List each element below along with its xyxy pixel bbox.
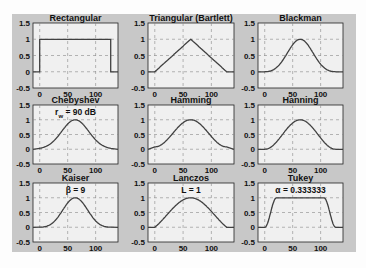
- y-tick-label: 0: [141, 223, 146, 232]
- y-tick-label: 1: [26, 35, 31, 44]
- subplot-rectangular: 050100-0.500.511.5Rectangular: [16, 14, 118, 99]
- x-tick-label: 50: [179, 244, 188, 252]
- subplot-title: Hamming: [170, 95, 211, 105]
- y-tick-label: 1: [251, 35, 256, 44]
- y-tick-label: 0: [26, 145, 31, 154]
- subplot-title: Chebyshev: [51, 95, 99, 105]
- y-tick-label: 0.5: [134, 209, 146, 218]
- subplot-title: Hanning: [283, 95, 319, 105]
- subplot-bartlett: 050100-0.500.511.5Triangular (Bartlett): [131, 14, 234, 99]
- y-tick-label: 0: [141, 145, 146, 154]
- y-tick-label: 1: [26, 194, 31, 203]
- y-tick-label: 1.5: [244, 179, 256, 188]
- y-tick-label: 0: [26, 68, 31, 77]
- figure: 050100-0.500.511.5Rectangular050100-0.50…: [12, 14, 356, 252]
- x-tick-label: 0: [153, 166, 158, 175]
- x-tick-label: 0: [262, 166, 267, 175]
- y-tick-label: 1.5: [134, 101, 146, 110]
- subplot-blackman: 050100-0.500.511.5Blackman: [241, 14, 343, 99]
- subplot-lanczos: 050100-0.500.511.5LanczosL = 1: [131, 173, 234, 252]
- y-tick-label: 1.5: [244, 19, 256, 28]
- y-tick-label: 1: [141, 194, 146, 203]
- y-tick-label: 1.5: [244, 101, 256, 110]
- subplot-title: Lanczos: [173, 173, 209, 183]
- x-tick-label: 100: [314, 244, 328, 252]
- x-tick-label: 0: [262, 90, 267, 99]
- subplot-title: Kaiser: [62, 173, 90, 183]
- x-tick-label: 100: [205, 244, 219, 252]
- x-tick-label: 50: [288, 244, 297, 252]
- subplot-title: Tukey: [288, 173, 313, 183]
- x-tick-label: 0: [262, 244, 267, 252]
- y-tick-label: 0.5: [244, 131, 256, 140]
- subplot-hanning: 050100-0.500.511.5Hanning: [241, 95, 343, 175]
- y-tick-label: 1.5: [19, 101, 31, 110]
- y-tick-label: 0.5: [19, 52, 31, 61]
- subplot-title: Rectangular: [49, 14, 102, 23]
- y-tick-label: 0: [251, 223, 256, 232]
- y-tick-label: -0.5: [16, 160, 30, 169]
- y-tick-label: 0.5: [19, 209, 31, 218]
- y-tick-label: 0: [141, 68, 146, 77]
- x-tick-label: 100: [314, 166, 328, 175]
- y-tick-label: -0.5: [241, 84, 255, 93]
- subplot-annotation: L = 1: [181, 185, 201, 195]
- y-tick-label: -0.5: [131, 84, 145, 93]
- y-tick-label: -0.5: [241, 238, 255, 247]
- y-tick-label: 1: [141, 35, 146, 44]
- subplot-kaiser: 050100-0.500.511.5Kaiserβ = 9: [16, 173, 118, 252]
- subplot-title: Blackman: [279, 14, 322, 23]
- y-tick-label: -0.5: [131, 238, 145, 247]
- y-tick-label: 1: [251, 116, 256, 125]
- x-tick-label: 100: [89, 166, 103, 175]
- y-tick-label: 0: [26, 223, 31, 232]
- subplot-tukey: 050100-0.500.511.5Tukeyα = 0.333333: [241, 173, 343, 252]
- y-tick-label: 1: [26, 116, 31, 125]
- y-tick-label: 1.5: [19, 179, 31, 188]
- subplot-chebyshev: 050100-0.500.511.5Chebyshevrw = 90 dB: [16, 95, 118, 175]
- subplot-hamming: 050100-0.500.511.5Hamming: [131, 95, 234, 175]
- y-tick-label: 1: [251, 194, 256, 203]
- x-tick-label: 0: [37, 244, 42, 252]
- y-tick-label: 0.5: [244, 209, 256, 218]
- subplot-title: Triangular (Bartlett): [149, 14, 233, 23]
- y-tick-label: -0.5: [16, 238, 30, 247]
- x-tick-label: 0: [37, 166, 42, 175]
- y-tick-label: -0.5: [131, 160, 145, 169]
- x-tick-label: 100: [89, 244, 103, 252]
- subplot-grid: 050100-0.500.511.5Rectangular050100-0.50…: [12, 14, 356, 252]
- y-tick-label: -0.5: [241, 160, 255, 169]
- y-tick-label: 1.5: [134, 19, 146, 28]
- y-tick-label: 1.5: [19, 19, 31, 28]
- subplot-annotation: α = 0.333333: [275, 185, 326, 195]
- y-tick-label: 1: [141, 116, 146, 125]
- subplot-annotation: β = 9: [66, 185, 86, 195]
- y-tick-label: 0: [251, 68, 256, 77]
- x-tick-label: 0: [37, 90, 42, 99]
- x-tick-label: 50: [63, 244, 72, 252]
- y-tick-label: 0.5: [134, 131, 146, 140]
- y-tick-label: 0.5: [244, 52, 256, 61]
- y-tick-label: 0.5: [19, 131, 31, 140]
- y-tick-label: 0.5: [134, 52, 146, 61]
- y-tick-label: 1.5: [134, 179, 146, 188]
- x-tick-label: 0: [153, 90, 158, 99]
- x-tick-label: 0: [153, 244, 158, 252]
- y-tick-label: 0: [251, 145, 256, 154]
- y-tick-label: -0.5: [16, 84, 30, 93]
